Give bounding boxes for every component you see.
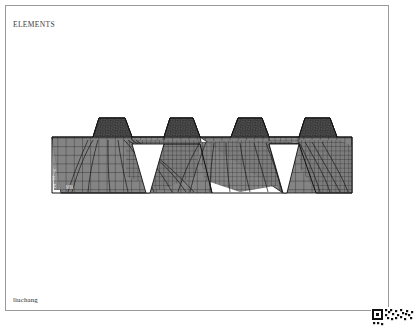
triad-label-y: Y xyxy=(53,170,56,175)
triad-label-x: X xyxy=(52,177,55,182)
page-title: ELEMENTS xyxy=(13,20,55,29)
coordinate-triad: Y X Z MN xyxy=(52,168,82,194)
qr-code-watermark xyxy=(371,307,414,326)
plot-frame: ELEMENTS liuchang xyxy=(5,5,389,311)
triad-label-z: Z xyxy=(53,185,56,190)
triad-label-mn: MN xyxy=(66,186,73,191)
ansys-plot-window: ELEMENTS liuchang xyxy=(0,0,414,326)
plot-footer-label: liuchang xyxy=(13,296,38,304)
